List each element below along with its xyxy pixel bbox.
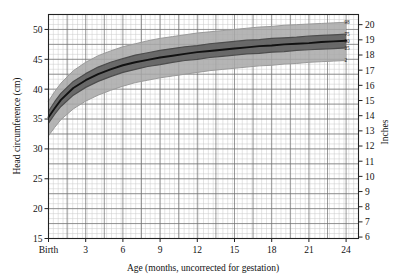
x-tick-label: 18	[267, 245, 277, 255]
y2-tick-label: 6	[365, 232, 370, 242]
percentile-label-50: 50	[345, 38, 351, 44]
x-tick-label: 3	[83, 245, 88, 255]
x-tick-label: 21	[304, 245, 314, 255]
y2-tick-label: 7	[365, 217, 370, 227]
y2-tick-label: 20	[365, 20, 375, 30]
x-tick-label: 9	[158, 245, 163, 255]
y-tick-label: 20	[33, 204, 43, 214]
y2-tick-label: 8	[365, 202, 370, 212]
y2-tick-label: 10	[365, 172, 375, 182]
y2-tick-label: 17	[365, 66, 375, 76]
x-tick-label: 6	[121, 245, 126, 255]
y-tick-label: 50	[33, 25, 43, 35]
y-tick-label: 15	[33, 234, 43, 244]
head-circumference-chart-svg: Birth3691215182124 1520253035404550 6789…	[0, 0, 395, 278]
percentile-label-75: 75	[345, 31, 351, 37]
x-tick-label: 15	[230, 245, 240, 255]
y2-tick-label: 15	[365, 96, 375, 106]
y2-tick-label: 19	[365, 35, 375, 45]
percentile-label-25: 25	[345, 45, 351, 51]
y2-tick-label: 18	[365, 50, 375, 60]
percentile-label-98: 98	[345, 19, 351, 25]
y2-tick-label: 11	[365, 157, 374, 167]
x-axis-title: Age (months, uncorrected for gestation)	[127, 263, 279, 274]
y-tick-label: 45	[33, 55, 43, 65]
y2-axis-title: Inches	[380, 119, 390, 144]
y2-tick-label: 16	[365, 81, 375, 91]
x-tick-label: 24	[341, 245, 351, 255]
y2-tick-label: 14	[365, 111, 375, 121]
growth-chart: Birth3691215182124 1520253035404550 6789…	[0, 0, 395, 278]
x-tick-label: Birth	[39, 245, 59, 255]
y-tick-label: 30	[33, 144, 43, 154]
percentile-label-2: 2	[345, 57, 348, 63]
y-tick-label: 40	[33, 85, 43, 95]
y2-tick-label: 12	[365, 141, 375, 151]
y2-tick-label: 9	[365, 187, 370, 197]
y-axis-title: Head circumference (cm)	[12, 77, 23, 174]
y2-tick-label: 13	[365, 126, 375, 136]
y-tick-label: 25	[33, 174, 43, 184]
y-tick-label: 35	[33, 114, 43, 124]
x-tick-label: 12	[193, 245, 203, 255]
